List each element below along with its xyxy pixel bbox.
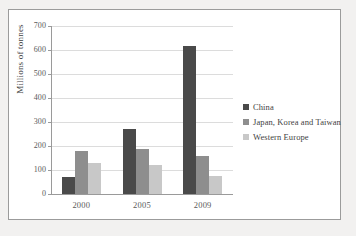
bar-group [112,26,173,194]
y-axis-label-200: 200 [16,142,46,150]
legend-label: China [253,102,274,112]
plot-wrapper: Millions of tonnes 010020030040050060070… [9,10,342,221]
y-axis-label-700: 700 [16,22,46,30]
y-axis-label-wrap-300: 300 [9,118,46,119]
y-axis-label-wrap-600: 600 [9,46,46,47]
legend-label: Western Europe [253,132,309,142]
bar [88,163,101,194]
legend-item[interactable]: Japan, Korea and Taiwan [243,117,341,127]
x-axis-label: 2009 [172,200,233,210]
y-axis-label-300: 300 [16,118,46,126]
y-axis-label-100: 100 [16,166,46,174]
legend-item[interactable]: Western Europe [243,132,341,142]
y-axis-label-600: 600 [16,46,46,54]
chart-screenshot: Millions of tonnes 010020030040050060070… [0,0,356,236]
legend-swatch-icon [243,104,249,110]
y-axis-label-500: 500 [16,70,46,78]
bar-group [51,26,112,194]
bar [123,129,136,194]
legend-label: Japan, Korea and Taiwan [253,117,341,127]
y-axis-label-0: 0 [16,190,46,198]
bar [62,177,75,194]
bar [196,156,209,194]
y-axis-label-wrap-700: 700 [9,22,46,23]
chart-panel: Millions of tonnes 010020030040050060070… [8,9,341,220]
x-axis-label: 2005 [112,200,173,210]
bar [136,149,149,194]
y-axis-label-wrap-200: 200 [9,142,46,143]
legend-item[interactable]: China [243,102,341,112]
gridline-0 [51,194,233,195]
chart-legend: ChinaJapan, Korea and TaiwanWestern Euro… [243,102,341,147]
bar [75,151,88,194]
y-axis-label-wrap-400: 400 [9,94,46,95]
y-axis-label-400: 400 [16,94,46,102]
bar [149,165,162,194]
x-axis-tick-labels: 200020052009 [51,200,233,210]
bar [183,46,196,194]
legend-swatch-icon [243,119,249,125]
y-axis-label-wrap-500: 500 [9,70,46,71]
bar-group [172,26,233,194]
bar-groups [51,26,233,194]
x-axis-label: 2000 [51,200,112,210]
legend-swatch-icon [243,134,249,140]
y-axis-label-wrap-100: 100 [9,166,46,167]
y-axis-label-wrap-0: 0 [9,190,46,191]
bar [209,176,222,194]
